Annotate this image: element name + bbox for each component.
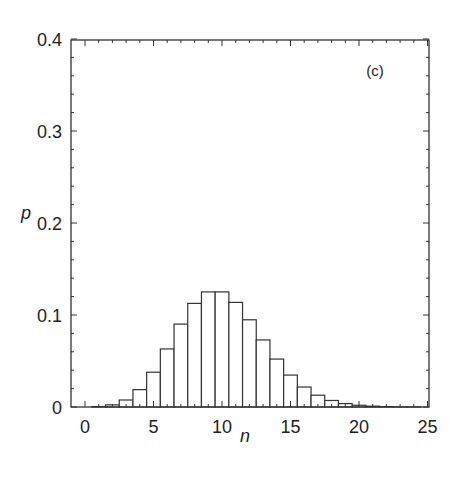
y-tick-label: 0.3: [37, 122, 62, 142]
y-tick-label: 0.4: [37, 30, 62, 50]
y-axis-label: p: [20, 203, 31, 223]
y-tick-label: 0.2: [37, 214, 62, 234]
histogram-bar: [270, 359, 284, 407]
x-tick-label: 20: [349, 417, 369, 437]
histogram-bar: [160, 349, 174, 407]
panel-label: (c): [366, 62, 384, 79]
histogram-bar: [188, 303, 202, 407]
x-tick-label: 25: [417, 417, 437, 437]
x-tick-labels: 0510152025: [80, 417, 438, 437]
histogram-bar: [215, 292, 229, 407]
histogram-bar: [229, 302, 243, 407]
y-tick-label: 0.1: [37, 306, 62, 326]
x-tick-label: 5: [148, 417, 158, 437]
y-tick-labels: 00.10.20.30.4: [37, 30, 62, 418]
y-tick-label: 0: [52, 398, 62, 418]
x-axis-label: n: [240, 426, 250, 446]
histogram-chart: 0510152025 00.10.20.30.4 n p (c): [0, 0, 457, 480]
x-tick-label: 15: [280, 417, 300, 437]
histogram-bar: [174, 324, 188, 407]
histogram-bar: [243, 320, 257, 407]
x-tick-label: 10: [212, 417, 232, 437]
histogram-bars: [92, 292, 421, 407]
histogram-bar: [256, 340, 270, 407]
histogram-bar: [201, 292, 215, 407]
x-tick-label: 0: [80, 417, 90, 437]
